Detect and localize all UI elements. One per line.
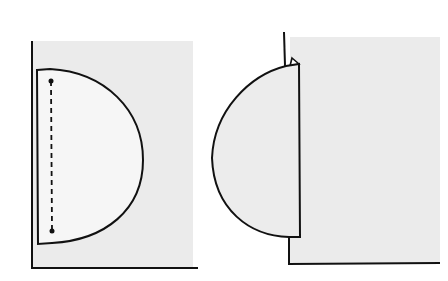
fold-point-bottom xyxy=(50,229,55,234)
sheet xyxy=(290,37,440,263)
folded-flap xyxy=(212,64,300,237)
panel-after-fold xyxy=(212,32,440,264)
panel-before-fold xyxy=(32,41,198,268)
fold-point-top xyxy=(49,79,54,84)
fold-line-dashed xyxy=(51,81,52,231)
sheet-edge-top xyxy=(284,32,285,66)
folding-diagram xyxy=(0,0,448,281)
